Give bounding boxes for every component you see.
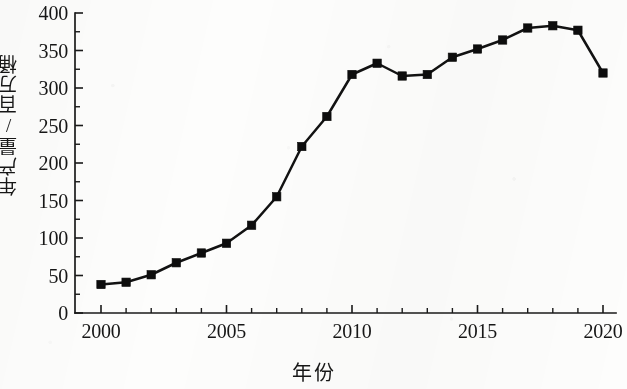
y-axis-ticks xyxy=(75,13,83,313)
x-tick-label: 2000 xyxy=(81,320,120,343)
axes xyxy=(75,13,616,313)
data-point-marker xyxy=(448,53,456,61)
x-tick-label: 2005 xyxy=(207,320,246,343)
data-point-marker xyxy=(524,24,532,32)
data-point-marker xyxy=(323,112,331,120)
data-point-marker xyxy=(273,193,281,201)
series-markers-annual-production xyxy=(97,22,607,289)
data-point-marker xyxy=(197,249,205,257)
series-line-annual-production xyxy=(101,26,603,285)
data-series-group xyxy=(97,22,607,289)
x-axis-ticks xyxy=(101,305,603,313)
y-tick-label: 100 xyxy=(14,227,68,250)
x-axis-title: 年份 xyxy=(0,357,627,386)
data-point-marker xyxy=(97,280,105,288)
chart-figure: 050100150200250300350400 200020052010201… xyxy=(0,0,627,389)
data-point-marker xyxy=(222,239,230,247)
data-point-marker xyxy=(373,59,381,67)
data-point-marker xyxy=(298,142,306,150)
data-point-marker xyxy=(147,271,155,279)
data-point-marker xyxy=(247,221,255,229)
data-point-marker xyxy=(348,70,356,78)
data-point-marker xyxy=(549,22,557,30)
data-point-marker xyxy=(172,259,180,267)
x-tick-label: 2010 xyxy=(332,320,371,343)
data-point-marker xyxy=(599,69,607,77)
data-point-marker xyxy=(473,45,481,53)
data-point-marker xyxy=(423,70,431,78)
y-tick-label: 0 xyxy=(14,302,68,325)
data-point-marker xyxy=(398,72,406,80)
y-tick-label: 50 xyxy=(14,264,68,287)
y-axis-title: 年产量/百万桶 xyxy=(0,54,29,196)
data-point-marker xyxy=(574,26,582,34)
data-point-marker xyxy=(122,278,130,286)
y-tick-label: 400 xyxy=(14,2,68,25)
x-tick-label: 2015 xyxy=(458,320,497,343)
x-tick-label: 2020 xyxy=(583,320,622,343)
data-point-marker xyxy=(498,36,506,44)
